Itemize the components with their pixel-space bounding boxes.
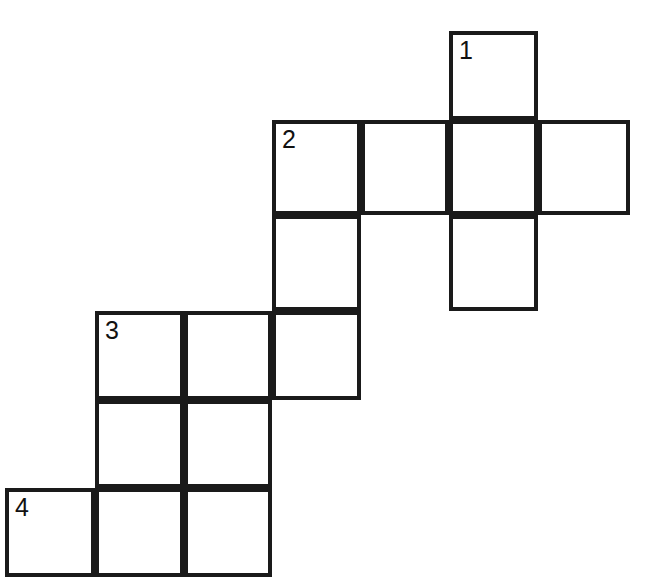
cell-r0c5[interactable]: 1: [449, 31, 538, 120]
cell-number-3: 3: [105, 316, 119, 345]
cell-number-1: 1: [459, 36, 473, 65]
cell-r4c1[interactable]: [95, 400, 184, 488]
cell-r3c2[interactable]: [184, 311, 272, 400]
cell-r5c1[interactable]: [95, 488, 184, 577]
cell-r1c6[interactable]: [538, 120, 630, 215]
cell-r5c2[interactable]: [184, 488, 272, 577]
cell-number-4: 4: [15, 493, 29, 522]
cell-r3c3[interactable]: [272, 311, 361, 400]
cell-r2c5[interactable]: [449, 215, 538, 311]
cell-r1c4[interactable]: [361, 120, 449, 215]
cell-r3c1[interactable]: 3: [95, 311, 184, 400]
cell-number-2: 2: [282, 125, 296, 154]
cell-r4c2[interactable]: [184, 400, 272, 488]
cell-r1c5[interactable]: [449, 120, 538, 215]
cell-r5c0[interactable]: 4: [5, 488, 95, 577]
crossword-grid: 1234: [0, 0, 647, 588]
cell-r1c3[interactable]: 2: [272, 120, 361, 215]
cell-r2c3[interactable]: [272, 215, 361, 311]
